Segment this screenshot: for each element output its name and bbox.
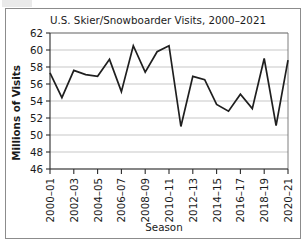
x-tick-label: 2014–15 <box>211 178 223 222</box>
x-tick-label: 2002–03 <box>68 178 80 222</box>
y-axis-label: Millions of Visits <box>10 65 22 161</box>
x-tick-label: 2004–05 <box>92 178 104 222</box>
x-tick-label: 2008–09 <box>139 178 151 222</box>
y-axis-ticks <box>46 33 50 169</box>
data-series-visits <box>50 46 288 127</box>
chart-outer-frame: U.S. Skier/Snowboarder Visits, 2000–2021… <box>5 8 301 239</box>
page-artifact <box>2 0 32 7</box>
series-line-visits <box>50 46 288 127</box>
x-tick-label: 2010–11 <box>163 178 175 222</box>
y-tick-label: 56 <box>30 78 43 90</box>
y-tick-label: 46 <box>30 163 43 175</box>
x-tick-label: 2006–07 <box>115 178 127 222</box>
y-tick-label: 50 <box>30 129 43 141</box>
x-axis-tick-labels: 2000–012002–032004–052006–072008–092010–… <box>44 178 294 222</box>
chart-figure: U.S. Skier/Snowboarder Visits, 2000–2021… <box>0 0 306 249</box>
y-axis-tick-labels: 626058565452504846 <box>30 27 43 175</box>
x-axis-ticks <box>50 169 288 174</box>
y-tick-label: 48 <box>30 146 43 158</box>
x-axis-label: Season <box>145 221 182 233</box>
x-tick-label: 2016–17 <box>234 178 246 222</box>
x-tick-label: 2000–01 <box>44 178 56 222</box>
x-tick-label: 2020–21 <box>282 178 294 222</box>
y-tick-label: 60 <box>30 44 43 56</box>
y-tick-label: 62 <box>30 27 43 39</box>
line-chart: U.S. Skier/Snowboarder Visits, 2000–2021… <box>6 9 300 238</box>
x-tick-label: 2012–13 <box>187 178 199 222</box>
x-tick-label: 2018–19 <box>258 178 270 222</box>
y-tick-label: 52 <box>30 112 43 124</box>
gridlines <box>50 33 288 169</box>
y-tick-label: 54 <box>30 95 43 107</box>
chart-title: U.S. Skier/Snowboarder Visits, 2000–2021 <box>50 14 266 26</box>
y-tick-label: 58 <box>30 61 43 73</box>
